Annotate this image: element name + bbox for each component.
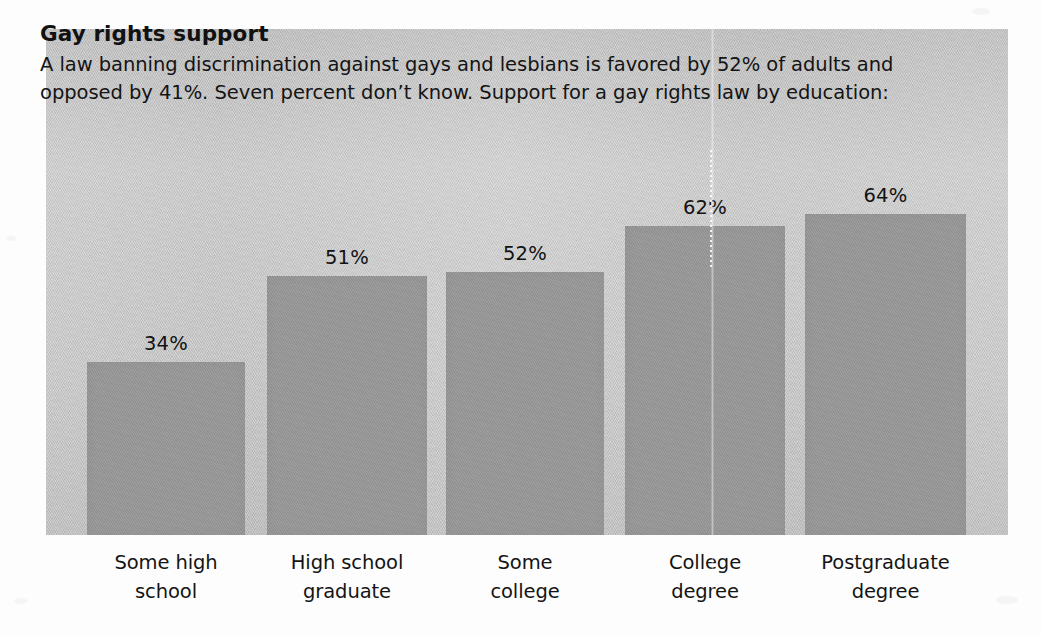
- x-axis-tick-college-degree: College degree: [625, 548, 785, 606]
- x-axis-tick-line: college: [446, 577, 604, 606]
- x-axis-tick-line: degree: [625, 577, 785, 606]
- bar-value-label: 51%: [267, 246, 427, 269]
- bar-value-label: 52%: [446, 242, 604, 265]
- x-axis-tick-high-school-graduate: High school graduate: [267, 548, 427, 606]
- bar[interactable]: [625, 226, 785, 535]
- bar-value-label: 64%: [805, 184, 966, 207]
- x-axis-tick-line: College: [625, 548, 785, 577]
- x-axis-tick-line: Some: [446, 548, 604, 577]
- bar[interactable]: [805, 214, 966, 535]
- chart-title: Gay rights support: [40, 22, 930, 47]
- bar[interactable]: [267, 276, 427, 535]
- x-axis-tick-some-college: Some college: [446, 548, 604, 606]
- chart-header: Gay rights support A law banning discrim…: [40, 22, 930, 107]
- scanned-page: 34% 51% 52% 62% 64% Gay rights suppo: [0, 0, 1041, 636]
- paper-speck: [6, 236, 16, 241]
- x-axis-tick-line: school: [87, 577, 245, 606]
- x-axis-labels: Some high school High school graduate So…: [46, 548, 1008, 628]
- bar-value-label: 62%: [625, 196, 785, 219]
- chart-subtitle-line-2: opposed by 41%. Seven percent don’t know…: [40, 79, 930, 107]
- x-axis-tick-line: Postgraduate: [805, 548, 966, 577]
- x-axis-tick-postgraduate-degree: Postgraduate degree: [805, 548, 966, 606]
- x-axis-tick-some-high-school: Some high school: [87, 548, 245, 606]
- x-axis-tick-line: graduate: [267, 577, 427, 606]
- paper-speck: [972, 8, 990, 15]
- x-axis-tick-line: degree: [805, 577, 966, 606]
- bar[interactable]: [87, 362, 245, 535]
- bar-value-label: 34%: [87, 332, 245, 355]
- x-axis-tick-line: Some high: [87, 548, 245, 577]
- bar[interactable]: [446, 272, 604, 535]
- chart-subtitle-line-1: A law banning discrimination against gay…: [40, 51, 930, 79]
- paper-speck: [14, 598, 28, 604]
- x-axis-tick-line: High school: [267, 548, 427, 577]
